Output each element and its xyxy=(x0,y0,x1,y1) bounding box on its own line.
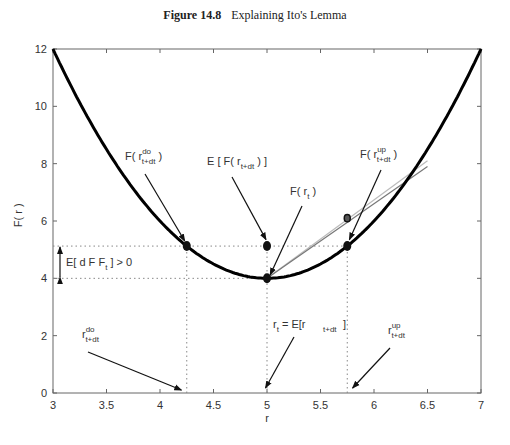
arrow-expected-f xyxy=(232,177,266,240)
label-expected-df: E[ d F Ft ] > 0 xyxy=(66,256,132,272)
point-marker xyxy=(183,241,191,251)
y-tick-label: 0 xyxy=(41,387,47,399)
y-tick-label: 4 xyxy=(41,272,47,284)
y-tick-label: 12 xyxy=(35,43,47,55)
y-tick-label: 10 xyxy=(35,100,47,112)
x-tick-label: 5.5 xyxy=(313,399,328,411)
label-f-rt: F( rt ) xyxy=(290,185,316,201)
y-axis-label: F( r ) xyxy=(12,203,24,227)
arrow-r-up xyxy=(353,348,390,388)
arrow-f-r-down xyxy=(145,174,185,241)
x-tick-label: 4.5 xyxy=(206,399,221,411)
label-f-r-down: F( rdot+dt ) xyxy=(125,147,162,166)
y-tick-label: 8 xyxy=(41,158,47,170)
label-expected-f: E [ F( rt+dt ) ] xyxy=(207,155,267,171)
label-r-down: rdot+dt xyxy=(82,325,100,344)
y-tick-label: 6 xyxy=(41,215,47,227)
x-tick-label: 5 xyxy=(264,399,270,411)
plot-axes: 33.544.555.566.57024681012rF( r ) xyxy=(12,43,484,424)
label-rt-eq-bracket: ] xyxy=(343,318,346,330)
x-tick-label: 7 xyxy=(478,399,484,411)
x-tick-label: 4 xyxy=(157,399,163,411)
data-points xyxy=(183,215,352,284)
x-axis-label: r xyxy=(265,412,269,424)
point-marker xyxy=(263,241,271,251)
arrow-rt-eq xyxy=(266,337,294,388)
x-tick-label: 6 xyxy=(371,399,377,411)
label-r-up: rupt+dt xyxy=(388,321,406,340)
point-marker xyxy=(263,273,271,283)
point-marker xyxy=(343,241,351,251)
x-tick-label: 3 xyxy=(50,399,56,411)
plot-frame xyxy=(53,49,481,393)
label-f-r-up: F( rupt+dt ) xyxy=(360,145,397,164)
annotations: F( rdot+dt )E [ F( rt+dt ) ]F( rt )F( ru… xyxy=(60,145,406,390)
x-tick-label: 3.5 xyxy=(99,399,114,411)
chord-point-marker xyxy=(344,215,350,222)
label-rt-eq-sub: t+dt xyxy=(323,325,337,334)
arrow-r-down xyxy=(88,352,181,390)
ito-lemma-chart: 33.544.555.566.57024681012rF( r ) F( rdo… xyxy=(0,0,510,445)
label-rt-eq: rt = E[r xyxy=(273,318,306,334)
y-tick-label: 2 xyxy=(41,330,47,342)
x-tick-label: 6.5 xyxy=(420,399,435,411)
